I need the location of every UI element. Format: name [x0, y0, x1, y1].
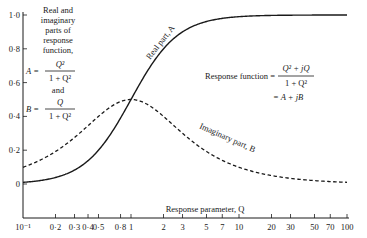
A-def-num: Q²: [56, 59, 65, 69]
response-fn-num: Q² + jQ: [282, 63, 309, 73]
x-tick-label: 7: [220, 222, 224, 232]
x-tick-label: 50: [310, 222, 319, 232]
y-axis-description: Real and imaginary parts of response fun…: [25, 5, 76, 121]
x-tick-label: 3: [180, 222, 184, 232]
ylabel-line-4: response: [43, 35, 73, 45]
ylabel-line-2: imaginary: [41, 15, 76, 25]
imaginary-part-curve: [23, 100, 347, 183]
x-tick-label: 0·3: [69, 222, 80, 232]
B-def-den: 1 + Q²: [49, 111, 71, 121]
A-def-lhs: A =: [25, 66, 39, 76]
response-fn-line2: = A + jB: [273, 92, 303, 102]
x-ticks: 10⁻¹0·20·30·40·50·8123571020305070100: [15, 214, 353, 232]
ylabel-line-1: Real and: [43, 5, 74, 15]
y-tick-label: 0·2: [9, 145, 20, 155]
and-label: and: [52, 85, 65, 95]
B-def-lhs: B =: [26, 104, 39, 114]
imaginary-part-label: Imaginary part, B: [198, 121, 257, 155]
B-def-num: Q: [57, 97, 63, 107]
x-tick-label: 30: [286, 222, 295, 232]
x-tick-label: 0·5: [93, 222, 104, 232]
y-tick-label: 0·6: [9, 78, 20, 88]
x-tick-label: 20: [267, 222, 276, 232]
response-fn-lhs: Response function =: [205, 71, 275, 81]
x-axis-label: Response parameter, Q: [166, 204, 245, 214]
x-tick-label: 0·2: [50, 222, 61, 232]
A-def-den: 1 + Q²: [49, 73, 71, 83]
x-tick-label: 2: [161, 222, 165, 232]
y-tick-label: 0: [16, 179, 20, 189]
chart: 10⁻¹0·20·30·40·50·8123571020305070100 00…: [0, 0, 367, 238]
y-ticks: 00·20·40·60·81·0: [9, 10, 27, 189]
x-tick-label: 0·8: [115, 222, 126, 232]
x-tick-label: 10⁻¹: [15, 222, 31, 232]
response-function-definition: Response function = Q² + jQ 1 + Q² = A +…: [205, 63, 314, 102]
y-tick-label: 0·4: [9, 111, 21, 121]
x-tick-label: 5: [204, 222, 208, 232]
x-tick-label: 1: [129, 222, 133, 232]
y-tick-label: 0·8: [9, 44, 20, 54]
response-fn-den: 1 + Q²: [285, 78, 307, 88]
x-tick-label: 100: [341, 222, 354, 232]
ylabel-line-5: function,: [43, 45, 73, 55]
x-tick-label: 10: [235, 222, 244, 232]
y-tick-label: 1·0: [9, 10, 20, 20]
x-tick-label: 70: [326, 222, 335, 232]
ylabel-line-3: parts of: [45, 25, 71, 35]
real-part-label: Real part, A: [144, 22, 178, 61]
